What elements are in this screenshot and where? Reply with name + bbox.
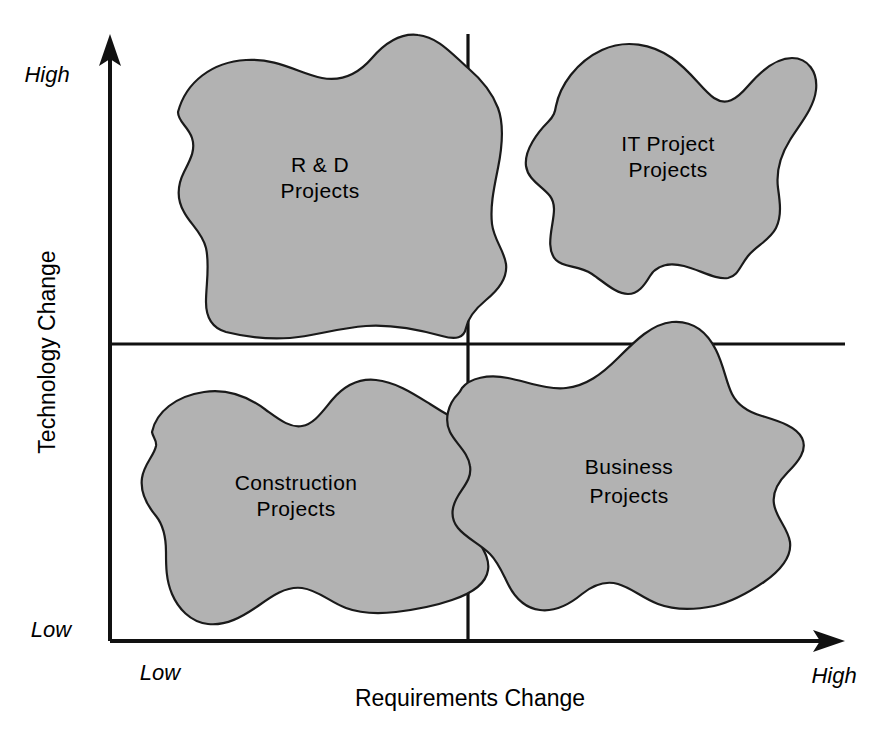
- region-label-rd-line1: R & D: [291, 153, 349, 176]
- y-axis-title: Technology Change: [34, 250, 60, 453]
- region-label-it-line2: Projects: [628, 158, 707, 181]
- y-axis-high-label: High: [24, 62, 69, 87]
- x-axis-title: Requirements Change: [355, 685, 585, 711]
- x-axis-high-label: High: [811, 663, 856, 688]
- region-label-it-line1: IT Project: [621, 132, 714, 155]
- quadrant-diagram: R & D Projects IT Project Projects Const…: [0, 0, 889, 735]
- region-label-business-line2: Projects: [589, 484, 668, 507]
- region-label-construction-line1: Construction: [235, 471, 358, 494]
- x-axis-low-label: Low: [140, 660, 182, 685]
- region-label-construction-line2: Projects: [256, 497, 335, 520]
- y-axis-low-label: Low: [31, 617, 73, 642]
- region-label-business-line1: Business: [585, 455, 673, 478]
- region-label-rd-line2: Projects: [280, 179, 359, 202]
